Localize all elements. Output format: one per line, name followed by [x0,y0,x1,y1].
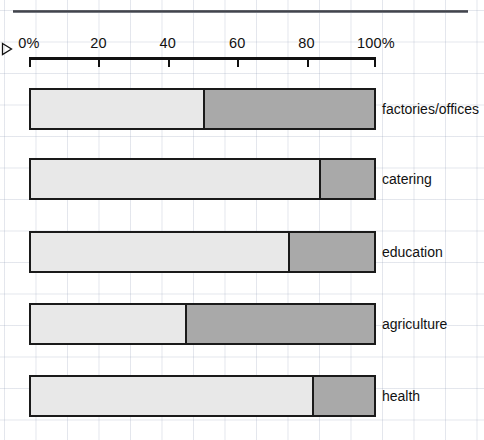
x-axis-tick [307,57,309,67]
stacked-bar [29,303,376,345]
bar-category-label: catering [382,158,432,200]
stacked-bar [29,231,376,273]
x-axis-tick-label: 20 [90,35,107,51]
x-axis-tick-label: 80 [298,35,315,51]
bar-row: factories/offices [29,88,484,130]
bar-row: agriculture [29,303,484,345]
x-axis-tick [98,57,100,67]
bar-category-label: factories/offices [382,88,479,130]
bar-segment-2 [312,377,374,415]
x-axis-tick [29,57,31,67]
bar-category-label: health [382,375,420,417]
bar-segment-1 [31,377,312,415]
x-axis-line [29,57,376,60]
chart-figure: 0%20406080100% factories/officescatering… [0,0,484,440]
bar-segment-2 [203,90,375,128]
bar-category-label: education [382,231,443,273]
bar-row: health [29,375,484,417]
top-rule-divider [13,10,468,13]
bar-segment-1 [31,160,319,198]
triangle-right-icon [1,42,13,56]
bar-segment-1 [31,90,203,128]
bar-segment-2 [319,160,374,198]
bar-row: catering [29,158,484,200]
stacked-bar [29,88,376,130]
bar-segment-2 [185,305,374,343]
bar-segment-1 [31,233,288,271]
x-axis-tick [374,57,376,67]
bar-segment-1 [31,305,185,343]
x-axis-tick-label: 0% [18,35,39,51]
stacked-bar [29,158,376,200]
x-axis-tick-label: 100% [357,35,395,51]
x-axis-tick-label: 60 [229,35,246,51]
bar-category-label: agriculture [382,303,447,345]
bar-row: education [29,231,484,273]
x-axis-tick [237,57,239,67]
x-axis-tick [168,57,170,67]
bar-segment-2 [288,233,374,271]
x-axis-tick-label: 40 [160,35,177,51]
x-axis: 0%20406080100% [29,57,376,67]
stacked-bar [29,375,376,417]
